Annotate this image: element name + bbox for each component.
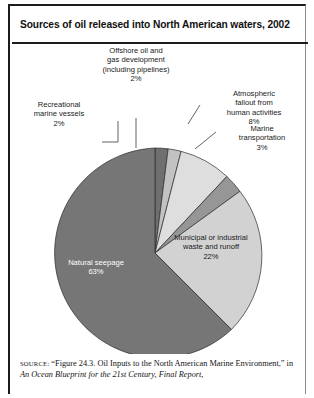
source-label: Source:: [20, 360, 49, 367]
leader-recreational: [102, 121, 118, 142]
label-atmospheric-line3: human activities: [202, 108, 306, 117]
label-marine-value: 3%: [218, 143, 306, 152]
figure-panel: Sources of oil released into North Ameri…: [8, 4, 306, 394]
label-marine-line2: transportation: [218, 133, 306, 142]
label-offshore-line2: gas development: [66, 55, 206, 64]
label-atmospheric-line1: Atmospheric: [202, 89, 306, 98]
label-atmospheric-fallout: Atmospheric fallout from human activitie…: [202, 89, 306, 127]
label-municipal-line1: Municipal or industrial: [147, 233, 275, 242]
figure-title: Sources of oil released into North Ameri…: [20, 19, 298, 31]
label-recreational-marine-vessels: Recreational marine vessels 2%: [16, 100, 102, 128]
label-municipal-line2: waste and runoff: [147, 242, 275, 251]
label-atmospheric-line2: fallout from: [202, 98, 306, 107]
label-natural-seepage-line1: Natural seepage: [46, 258, 146, 267]
source-line1: “Figure 24.3. Oil Inputs to the North Am…: [51, 359, 233, 368]
label-recreational-value: 2%: [16, 119, 102, 128]
source-line2-italic: An Ocean Blueprint for the 21st Century,…: [20, 370, 203, 379]
label-natural-seepage-value: 63%: [46, 267, 146, 276]
label-offshore-oil-gas: Offshore oil and gas development (includ…: [66, 46, 206, 84]
label-offshore-line3: (including pipelines): [66, 65, 206, 74]
label-natural-seepage: Natural seepage 63%: [46, 258, 146, 277]
label-marine-line1: Marine: [218, 124, 306, 133]
label-municipal-value: 22%: [147, 252, 275, 261]
label-recreational-line1: Recreational: [16, 100, 102, 109]
label-offshore-value: 2%: [66, 74, 206, 83]
label-offshore-line1: Offshore oil and: [66, 46, 206, 55]
leader-atmospheric: [188, 105, 200, 124]
pie-chart: Offshore oil and gas development (includ…: [10, 42, 308, 354]
label-recreational-line2: marine vessels: [16, 109, 102, 118]
source-line2-pre: Environment,” in: [235, 359, 293, 368]
leader-marine-transport: [195, 132, 216, 149]
label-marine-transportation: Marine transportation 3%: [218, 124, 306, 152]
label-municipal-industrial-waste: Municipal or industrial waste and runoff…: [147, 233, 275, 261]
leader-lines: [102, 105, 216, 149]
source-note: Source: “Figure 24.3. Oil Inputs to the …: [20, 358, 304, 381]
